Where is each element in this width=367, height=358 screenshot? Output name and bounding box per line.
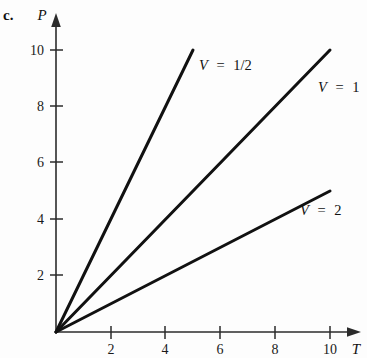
series-label-v-two-eq: = [317, 202, 325, 218]
series-label-v-half: V = 1/2 [199, 57, 252, 73]
x-tick-label-4: 4 [162, 342, 169, 357]
series-line-v-one [56, 50, 330, 332]
x-tick-label-8: 8 [272, 342, 279, 357]
series-label-v-two-value: 2 [334, 202, 341, 218]
series-label-v-one-eq: = [335, 79, 343, 95]
x-axis-label: T [352, 341, 362, 357]
y-tick-label-6: 6 [37, 155, 44, 170]
series-label-v-one-var: V [318, 79, 329, 95]
x-axis-arrowhead [347, 327, 361, 337]
y-tick-label-10: 10 [30, 43, 44, 58]
x-tick-label-6: 6 [217, 342, 224, 357]
series-label-v-one-value: 1 [352, 79, 359, 95]
series-label-v-two-var: V [300, 202, 311, 218]
x-tick-label-10: 10 [323, 342, 337, 357]
y-tick-label-2: 2 [37, 268, 44, 283]
y-tick-label-4: 4 [37, 212, 44, 227]
y-tick-label-8: 8 [37, 99, 44, 114]
figure-panel: c. 10 8 6 4 2 [0, 0, 367, 358]
series-label-v-half-var: V [199, 57, 210, 73]
x-tick-labels-group: 2 4 6 8 10 [108, 342, 338, 357]
series-label-v-half-eq: = [216, 57, 224, 73]
series-line-v-two [56, 191, 330, 332]
pressure-temperature-chart: 10 8 6 4 2 2 4 6 8 10 P T [0, 0, 367, 358]
series-annotations-group: V = 1/2 V = 1 V = 2 [199, 57, 360, 218]
series-group [56, 50, 330, 332]
y-tick-labels-group: 10 8 6 4 2 [30, 43, 44, 283]
x-tick-label-2: 2 [108, 342, 115, 357]
series-label-v-half-value: 1/2 [233, 57, 252, 73]
y-axis-label: P [36, 7, 46, 23]
series-label-v-one: V = 1 [318, 79, 360, 95]
series-line-v-half [56, 50, 193, 332]
series-label-v-two: V = 2 [300, 202, 342, 218]
y-axis-arrowhead [51, 13, 61, 27]
